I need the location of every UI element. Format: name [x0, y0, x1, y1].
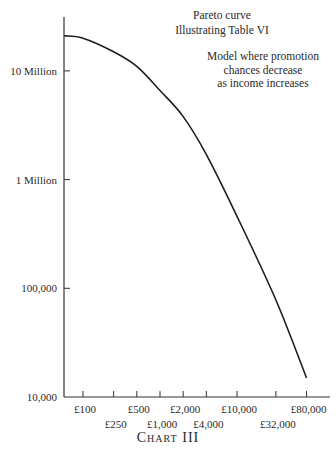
chart-title: Pareto curve — [162, 8, 282, 23]
annotation-line-1: Model where promotion — [196, 50, 330, 64]
annotation-line-2: chances decrease — [196, 64, 330, 78]
y-tick-label: 10 Million — [10, 65, 57, 77]
chart-subtitle: Illustrating Table VI — [162, 23, 282, 38]
y-tick-label: 1 Million — [16, 174, 58, 186]
chart-caption: Chart III — [0, 430, 336, 446]
model-annotation: Model where promotion chances decrease a… — [196, 50, 330, 91]
x-tick-label: £1,000 — [147, 418, 178, 430]
annotation-line-3: as income increases — [196, 77, 330, 91]
chart-title-block: Pareto curve Illustrating Table VI — [162, 8, 282, 38]
x-tick-label: £2,000 — [170, 403, 201, 415]
y-tick-label: 100,000 — [21, 282, 57, 294]
x-tick-label: £10,000 — [221, 403, 257, 415]
y-ticks: 10,000100,0001 Million10 Million — [10, 65, 70, 403]
x-tick-label: £250 — [105, 418, 128, 430]
subtitle-text: Illustrating Table — [175, 24, 256, 36]
x-tick-label: £32,000 — [260, 418, 296, 430]
x-tick-label: £100 — [74, 403, 97, 415]
x-tick-label: £500 — [128, 403, 151, 415]
x-tick-label: £80,000 — [291, 403, 327, 415]
x-tick-label: £4,000 — [193, 418, 224, 430]
subtitle-numeral: VI — [257, 24, 269, 36]
y-tick-label: 10,000 — [27, 391, 58, 403]
